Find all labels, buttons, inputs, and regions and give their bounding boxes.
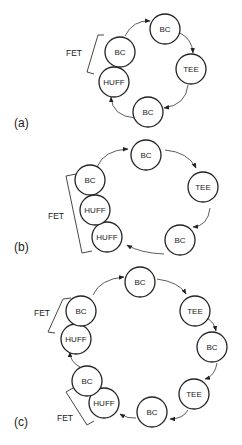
panel-label: (a) [14, 116, 29, 130]
node-bc: BC [105, 37, 135, 67]
svg-text:HUFF: HUFF [103, 78, 124, 87]
node-bc: BC [150, 14, 180, 44]
node-tee: TEE [179, 379, 209, 409]
svg-text:HUFF: HUFF [96, 233, 117, 242]
edge [180, 33, 193, 53]
svg-text:TEE: TEE [187, 307, 203, 316]
panel-b: FET (b) BC TEE BC HUFF HUFF BC [14, 140, 218, 255]
node-bc: BC [165, 225, 195, 255]
panel-c: FET FET (c) BC TEE BC TEE BC HUFF BC HUF… [14, 267, 227, 429]
node-bc: BC [137, 397, 167, 427]
node-tee: TEE [188, 172, 218, 202]
node-bc: BC [72, 366, 102, 396]
panel-label: (c) [14, 415, 28, 429]
fet-label: FET [57, 413, 73, 423]
svg-text:BC: BC [159, 25, 170, 34]
node-bc: BC [131, 140, 161, 170]
svg-text:BC: BC [146, 408, 157, 417]
panel-label: (b) [14, 240, 29, 254]
edge [97, 149, 128, 167]
svg-text:BC: BC [174, 236, 185, 245]
node-tee: TEE [176, 54, 206, 84]
svg-text:BC: BC [142, 108, 153, 117]
edge [125, 21, 150, 36]
edge [193, 208, 210, 227]
svg-text:BC: BC [134, 278, 145, 287]
fet-label: FET [34, 308, 50, 318]
fet-bracket [87, 35, 104, 74]
edge [207, 318, 216, 331]
huffman-cycle-diagram: FET (a) BC TEE BC HUFF BC FET (b) BC TEE… [0, 0, 242, 445]
svg-text:BC: BC [206, 343, 217, 352]
edge [164, 85, 188, 108]
fet-label: FET [48, 211, 64, 221]
node-huff: HUFF [92, 222, 122, 252]
node-huff: HUFF [99, 67, 129, 97]
edge [93, 277, 124, 295]
fet-label: FET [66, 48, 82, 58]
panel-a: FET (a) BC TEE BC HUFF BC [14, 14, 206, 130]
svg-text:TEE: TEE [186, 390, 202, 399]
edge [157, 279, 186, 294]
edge [111, 97, 135, 118]
node-huff: HUFF [61, 324, 91, 354]
svg-text:TEE: TEE [195, 183, 211, 192]
svg-text:BC: BC [140, 151, 151, 160]
edge [120, 414, 136, 418]
edge [205, 363, 217, 379]
node-tee: TEE [180, 296, 210, 326]
svg-text:BC: BC [81, 377, 92, 386]
svg-text:BC: BC [114, 48, 125, 57]
svg-text:HUFF: HUFF [84, 206, 105, 215]
svg-text:BC: BC [75, 307, 86, 316]
node-bc: BC [125, 267, 155, 297]
edge [170, 410, 188, 419]
node-huff: HUFF [80, 195, 110, 225]
node-bc: BC [197, 332, 227, 362]
node-bc: BC [133, 97, 163, 127]
edge [165, 150, 196, 168]
svg-text:HUFF: HUFF [93, 399, 114, 408]
svg-text:BC: BC [84, 176, 95, 185]
edge [127, 245, 164, 254]
node-bc: BC [66, 296, 96, 326]
node-bc: BC [75, 165, 105, 195]
svg-text:TEE: TEE [183, 65, 199, 74]
svg-text:HUFF: HUFF [65, 335, 86, 344]
